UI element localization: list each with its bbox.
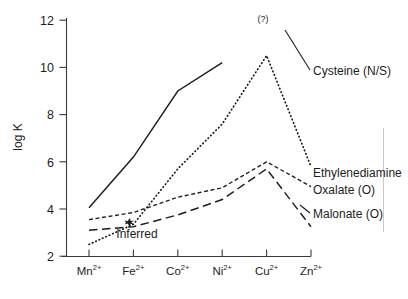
chart-svg: 12 10 8 6 4 2 log K Mn2+ Fe2+ Co2+ Ni2+ … xyxy=(0,0,408,299)
figure-container: 12 10 8 6 4 2 log K Mn2+ Fe2+ Co2+ Ni2+ … xyxy=(0,0,408,299)
series-label-cysteine: Cysteine (N/S) xyxy=(313,64,391,78)
uncertain-annotation: (?) xyxy=(258,14,269,24)
annotation-layer: (?) Inferred xyxy=(116,14,268,241)
x-tick-label-co-sup: 2+ xyxy=(181,263,190,272)
x-tick-label-zn-sup: 2+ xyxy=(313,263,322,272)
y-tick-label-10: 10 xyxy=(40,61,54,75)
inferred-annotation: Inferred xyxy=(116,227,157,241)
x-tick-label-cu: Cu2+ xyxy=(255,263,279,277)
series-layer xyxy=(89,56,311,245)
y-tick-label-2: 2 xyxy=(47,250,54,264)
x-tick-label-ni: Ni2+ xyxy=(212,263,232,277)
y-tick-label-12: 12 xyxy=(40,14,54,28)
inferred-star-marker xyxy=(125,218,134,227)
series-label-ethylenediamine: Ethylenediamine xyxy=(313,166,402,180)
y-tick-label-6: 6 xyxy=(47,156,54,170)
y-tick-label-8: 8 xyxy=(47,108,54,122)
x-tick-label-fe-sup: 2+ xyxy=(136,263,145,272)
x-tick-label-co: Co2+ xyxy=(166,263,190,277)
x-axis: Mn2+ Fe2+ Co2+ Ni2+ Cu2+ Zn2+ xyxy=(62,250,323,278)
x-tick-label-cu-sup: 2+ xyxy=(270,263,279,272)
x-tick-label-cu-base: Cu xyxy=(255,265,270,277)
x-tick-label-zn: Zn2+ xyxy=(300,263,323,277)
y-tick-label-4: 4 xyxy=(47,203,54,217)
x-tick-label-ni-sup: 2+ xyxy=(223,263,232,272)
series-label-layer: Cysteine (N/S) Ethylenediamine Oxalate (… xyxy=(285,30,402,221)
x-tick-label-mn: Mn2+ xyxy=(77,263,102,277)
series-line-ethylenediamine xyxy=(89,56,311,245)
series-line-malonate xyxy=(89,169,311,230)
x-tick-label-co-base: Co xyxy=(166,265,181,277)
x-tick-label-ni-base: Ni xyxy=(212,265,223,277)
x-tick-label-fe: Fe2+ xyxy=(122,263,145,277)
x-tick-label-fe-base: Fe xyxy=(122,265,135,277)
x-tick-label-mn-sup: 2+ xyxy=(93,263,102,272)
x-tick-label-mn-base: Mn xyxy=(77,265,93,277)
x-tick-label-zn-base: Zn xyxy=(300,265,313,277)
series-label-oxalate: Oxalate (O) xyxy=(313,183,375,197)
leader-line-cysteine xyxy=(285,30,310,70)
leader-line-malonate xyxy=(300,205,310,213)
y-axis: 12 10 8 6 4 2 log K xyxy=(11,14,67,264)
series-label-malonate: Malonate (O) xyxy=(313,207,383,221)
y-axis-label: log K xyxy=(11,123,25,150)
